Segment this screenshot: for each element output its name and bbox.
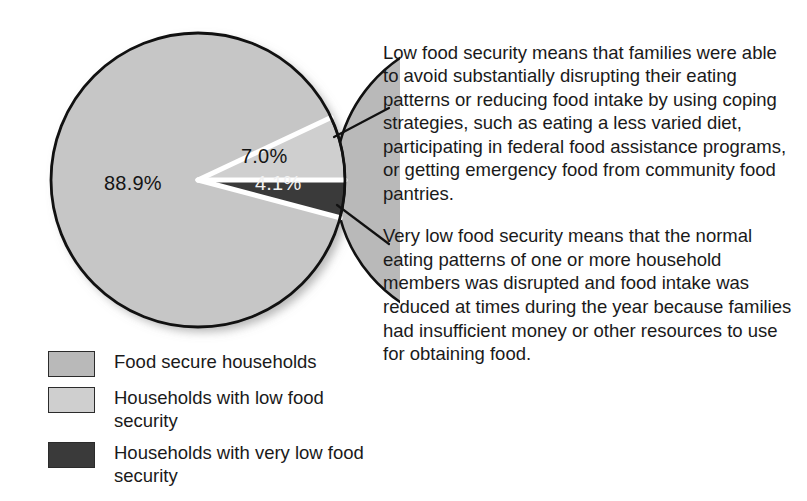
legend-label-very-low-security: Households with very low food security	[114, 441, 364, 487]
legend-item-very-low-security[interactable]: Households with very low food security	[48, 441, 378, 487]
pie-label-low-security: 7.0%	[241, 145, 287, 168]
pie-label-very-low-security: 4.1%	[255, 172, 301, 195]
legend: Food secure households Households with l…	[48, 350, 378, 496]
legend-label-low-security: Households with low food security	[114, 386, 364, 432]
annotation-very-low-food-security: Very low food security means that the no…	[383, 224, 795, 366]
annotation-panel: Low food security means that families we…	[383, 22, 795, 384]
legend-item-low-security[interactable]: Households with low food security	[48, 386, 378, 432]
annotation-low-food-security: Low food security means that families we…	[383, 41, 795, 206]
legend-item-food-secure[interactable]: Food secure households	[48, 350, 378, 377]
legend-swatch-food-secure	[48, 351, 95, 377]
pie-chart-svg	[0, 0, 400, 345]
legend-swatch-low-security	[48, 387, 95, 413]
pie-chart: 88.9% 7.0% 4.1%	[0, 0, 400, 345]
food-security-pie-figure: 88.9% 7.0% 4.1% Food secure households H…	[0, 0, 807, 501]
legend-label-food-secure: Food secure households	[114, 350, 317, 373]
legend-swatch-very-low-security	[48, 442, 95, 468]
pie-label-food-secure: 88.9%	[104, 172, 162, 195]
